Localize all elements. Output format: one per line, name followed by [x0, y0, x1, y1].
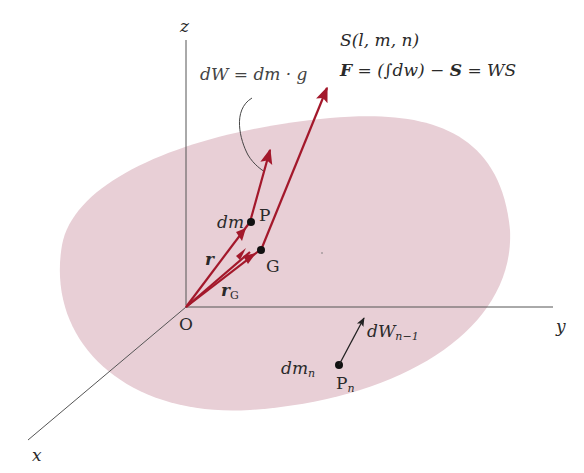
origin-label: O	[179, 316, 193, 333]
speck	[321, 252, 323, 254]
y-axis-label: y	[556, 318, 566, 335]
rg-label: rG	[221, 282, 239, 299]
dwn-label: dWn−1	[367, 323, 419, 340]
dm-label: dm	[217, 214, 244, 231]
point-p	[247, 218, 255, 226]
dmn-label: dmn	[281, 360, 315, 377]
dw-equation: dW = dm · g	[200, 66, 308, 83]
point-p-label: P	[259, 207, 270, 224]
s-vector-label: S(l, m, n)	[340, 32, 419, 49]
z-axis-label: z	[180, 18, 189, 35]
point-g-label: G	[266, 258, 280, 275]
rigid-body-weight-diagram: z y x O P G Pn dm r rG dmn dWn−1 dW = dm…	[0, 0, 584, 473]
point-g	[257, 246, 265, 254]
x-axis-label: x	[32, 447, 42, 464]
r-label: r	[205, 251, 214, 268]
f-equation: F = (∫dw) − S = WS	[340, 62, 516, 79]
point-pn-label: Pn	[336, 375, 355, 392]
